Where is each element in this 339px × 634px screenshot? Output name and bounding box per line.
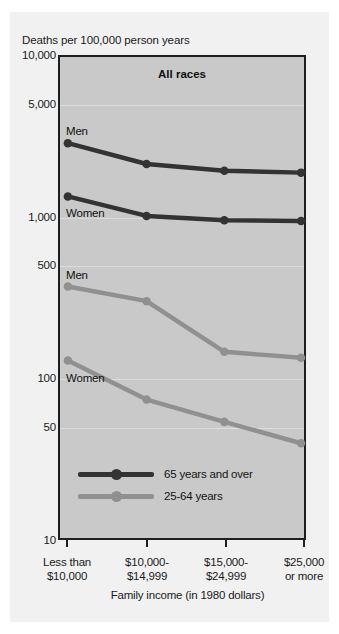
series-marker: [142, 395, 150, 404]
legend-item-25-64: 25-64 years: [78, 485, 253, 507]
series-marker: [220, 167, 228, 176]
y-axis: 10,0005,0001,0005001005010: [10, 55, 56, 540]
legend-swatch-gray: [78, 489, 154, 503]
series-marker: [142, 212, 150, 221]
series-marker: [142, 160, 150, 169]
x-tick-mark: [225, 540, 227, 547]
y-tick-label: 1,000: [12, 211, 56, 223]
x-tick-label: $15,000-$24,999: [183, 555, 269, 583]
x-tick-mark: [303, 540, 305, 547]
figure-panel: Deaths per 100,000 person years 10,0005,…: [10, 12, 329, 622]
series-line: [68, 143, 301, 172]
legend-item-65-and-over: 65 years and over: [78, 463, 253, 485]
series-marker: [64, 139, 72, 148]
series-marker: [297, 168, 305, 177]
legend-label-25-64: 25-64 years: [164, 490, 223, 502]
series-marker: [297, 439, 305, 448]
inline-series-label: Women: [66, 207, 104, 219]
x-tick-label: $10,000-$14,999: [104, 555, 190, 583]
x-tick-mark: [146, 540, 148, 547]
legend-swatch-dark: [78, 467, 154, 481]
y-tick-label: 10: [12, 534, 56, 546]
y-tick-label: 500: [12, 259, 56, 271]
series-line: [68, 287, 301, 358]
series-marker: [64, 192, 72, 201]
series-marker: [142, 297, 150, 306]
y-tick-label: 50: [12, 421, 56, 433]
x-tick-label: $25,000or more: [261, 555, 339, 583]
series-marker: [220, 348, 228, 357]
x-axis-title: Family income (in 1980 dollars): [58, 589, 317, 601]
series-marker: [297, 354, 305, 363]
inline-series-label: Men: [66, 269, 88, 281]
legend-label-65-and-over: 65 years and over: [164, 468, 253, 480]
y-axis-caption: Deaths per 100,000 person years: [22, 34, 190, 46]
inline-series-label: Men: [66, 125, 88, 137]
series-marker: [220, 216, 228, 225]
legend: 65 years and over 25-64 years: [78, 463, 253, 507]
x-tick-label: Less than$10,000: [24, 555, 110, 583]
series-marker: [64, 356, 72, 365]
plot-area: All races MenWomenMenWomen 65 years and …: [58, 55, 306, 540]
y-tick-label: 10,000: [12, 49, 56, 61]
y-tick-label: 5,000: [12, 98, 56, 110]
x-tick-mark: [66, 540, 68, 547]
series-marker: [220, 418, 228, 427]
series-marker: [64, 282, 72, 291]
series-marker: [297, 217, 305, 226]
inline-series-label: Women: [66, 372, 104, 384]
y-tick-label: 100: [12, 372, 56, 384]
